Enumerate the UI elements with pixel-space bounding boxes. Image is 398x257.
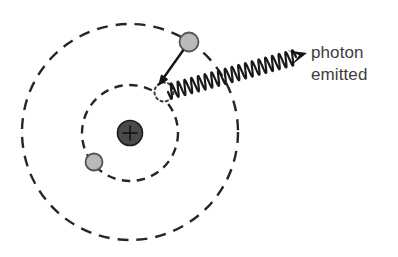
electron-transition-arrow-icon: [158, 51, 183, 87]
electron-inner-lower-icon: [86, 154, 103, 171]
photon-wave-icon: [168, 50, 296, 98]
photon-label-line-2: emitted: [311, 64, 367, 86]
bohr-atom-diagram: photon emitted: [0, 0, 398, 257]
photon-emitted-label: photon emitted: [311, 42, 367, 86]
electron-outer-upper-icon: [180, 33, 199, 52]
nucleus: [118, 121, 143, 146]
photon-label-line-1: photon: [311, 42, 367, 64]
atom-illustration: [0, 0, 398, 257]
